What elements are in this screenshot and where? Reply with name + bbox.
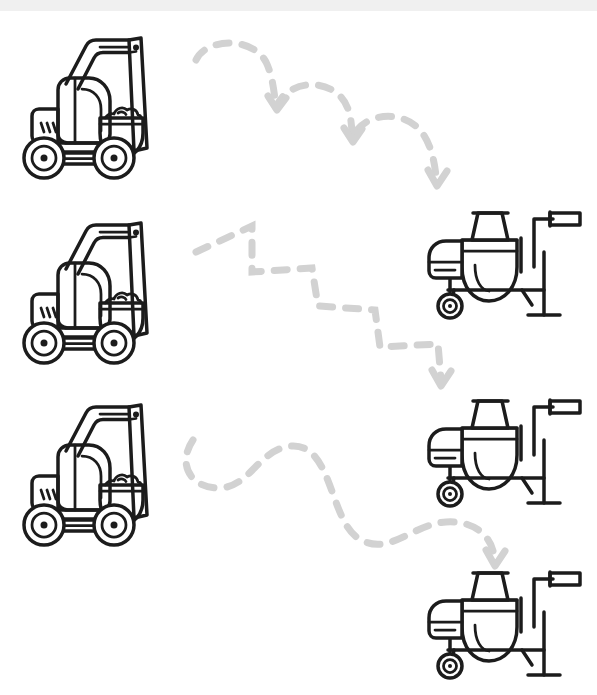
mixer-2[interactable] [424,380,587,520]
excavator-icon [10,25,200,175]
connector-1-path [196,43,436,176]
excavator-vent-icon [41,490,56,499]
mixer-drum-cone [472,401,508,428]
excavator-arm-pin [133,230,139,236]
mixer-frame-right-leg [522,650,532,665]
mixer-motor-housing [429,601,462,638]
cement-mixer-icon [424,192,587,332]
cement-mixer-icon [424,380,587,520]
mixer-1[interactable] [424,192,587,332]
mixer-frame-right-leg [522,478,532,493]
connector-2 [196,226,451,386]
excavator-vent-icon [41,123,56,132]
excavator-wheel-front [94,505,134,545]
excavator-dirt-detail [118,479,126,482]
excavator-arm-pin [133,45,139,51]
excavator-cabin-window [82,456,101,498]
cement-mixer-icon [424,552,587,692]
mixer-wheel [438,654,462,678]
mixer-wheel [438,294,462,318]
excavator-arm-pin [133,412,139,418]
mixer-frame-right-leg [522,290,532,305]
mixer-drum-cone [472,213,508,240]
mixer-motor-housing [429,429,462,466]
excavator-wheel-rear [24,138,64,178]
excavator-vent-icon [41,308,56,317]
excavator-wheel-front [94,323,134,363]
excavator-cabin-window [82,274,101,316]
mixer-drum-cone [472,573,508,600]
excavator-icon [10,392,200,542]
excavator-1[interactable] [10,25,200,175]
excavator-dirt-detail [118,297,126,300]
excavator-wheel-rear [24,323,64,363]
illustration-canvas [0,0,597,695]
excavator-icon [10,210,200,360]
connector-1 [196,43,447,186]
excavator-dirt-detail [118,112,126,115]
excavator-3[interactable] [10,392,200,542]
excavator-wheel-front [94,138,134,178]
mixer-3[interactable] [424,552,587,692]
excavator-2[interactable] [10,210,200,360]
excavator-wheel-rear [24,505,64,545]
excavator-arm-inner [129,237,136,238]
excavator-arm-inner [129,419,136,420]
mixer-wheel [438,482,462,506]
connector-2-path [196,226,441,380]
excavator-arm-inner [129,52,136,53]
mixer-motor-housing [429,241,462,278]
excavator-cabin-window [82,89,101,131]
